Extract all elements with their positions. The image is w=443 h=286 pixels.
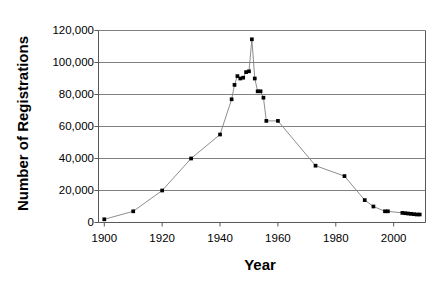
data-point bbox=[262, 96, 266, 100]
data-point bbox=[314, 164, 318, 168]
data-point bbox=[230, 97, 234, 101]
data-point bbox=[241, 76, 245, 80]
data-point bbox=[131, 209, 135, 213]
data-line bbox=[104, 39, 419, 219]
data-point bbox=[386, 209, 390, 213]
data-point bbox=[247, 69, 251, 73]
data-point bbox=[343, 174, 347, 178]
data-point bbox=[363, 198, 367, 202]
data-point bbox=[264, 119, 268, 123]
data-point bbox=[372, 205, 376, 209]
series-line bbox=[104, 39, 419, 219]
data-point bbox=[418, 213, 422, 217]
plot-area bbox=[0, 0, 443, 286]
data-point bbox=[250, 37, 254, 41]
data-point bbox=[218, 133, 222, 137]
data-point bbox=[253, 77, 257, 81]
axis-ticks bbox=[95, 31, 394, 227]
series-markers bbox=[102, 37, 421, 221]
data-point bbox=[160, 189, 164, 193]
data-point bbox=[276, 119, 280, 123]
data-point bbox=[102, 217, 106, 221]
gridlines bbox=[99, 31, 426, 191]
data-point bbox=[233, 83, 237, 87]
chart-figure: Number of Registrations Year 020,00040,0… bbox=[0, 0, 443, 286]
data-point bbox=[259, 89, 263, 93]
data-point bbox=[189, 157, 193, 161]
